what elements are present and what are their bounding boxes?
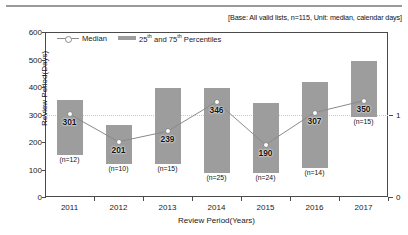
y-axis: Review Period(Days) 6005004003002001000 xyxy=(8,32,42,197)
y-tick-label: 400 xyxy=(12,83,42,92)
x-tick-label: 2016 xyxy=(306,203,324,212)
right-tick-mark xyxy=(389,197,393,198)
plot-area: 301(n=12)201(n=10)239(n=15)346(n=25)190(… xyxy=(45,32,388,197)
median-value-label: 201 xyxy=(112,145,126,155)
x-tick-label: 2012 xyxy=(110,203,128,212)
right-tick-label: 1 xyxy=(396,111,400,120)
y-tick-label: 100 xyxy=(12,165,42,174)
median-marker-icon xyxy=(65,36,72,43)
sample-count-label: (n=24) xyxy=(256,174,276,181)
median-line-swatch-icon xyxy=(57,35,79,42)
sample-count-label: (n=15) xyxy=(158,165,178,172)
x-axis: Review Period(Years) 2011201220132014201… xyxy=(45,197,388,227)
y-tick-label: 500 xyxy=(12,55,42,64)
median-value-label: 301 xyxy=(63,117,77,127)
median-value-label: 239 xyxy=(161,134,175,144)
median-value-label: 307 xyxy=(308,116,322,126)
right-tick-mark xyxy=(389,115,393,116)
sample-count-label: (n=12) xyxy=(60,156,80,163)
y-tick-label: 300 xyxy=(12,110,42,119)
x-axis-label: Review Period(Years) xyxy=(45,216,388,225)
median-value-label: 346 xyxy=(210,105,224,115)
x-tick-mark xyxy=(143,197,144,201)
x-tick-label: 2017 xyxy=(355,203,373,212)
legend-percentiles-word: Percentiles xyxy=(182,35,222,44)
chart-screenshot: [Base: All valid lists, n=115, Unit: med… xyxy=(0,0,408,235)
legend-item-percentiles: 25th and 75th Percentiles xyxy=(118,33,221,44)
legend-item-median: Median xyxy=(57,34,107,43)
legend-label-percentiles: 25th and 75th Percentiles xyxy=(139,33,221,44)
sample-count-label: (n=10) xyxy=(109,165,129,172)
y-tick-label: 0 xyxy=(12,193,42,202)
x-tick-mark xyxy=(94,197,95,201)
x-tick-mark xyxy=(339,197,340,201)
x-tick-mark xyxy=(388,197,389,201)
right-tick-label: 0 xyxy=(396,193,400,202)
legend-and: and 75 xyxy=(152,35,177,44)
x-tick-mark xyxy=(192,197,193,201)
sample-count-label: (n=25) xyxy=(207,174,227,181)
x-tick-label: 2014 xyxy=(208,203,226,212)
sample-count-label: (n=14) xyxy=(305,169,325,176)
legend-label-median: Median xyxy=(82,34,107,43)
x-tick-label: 2015 xyxy=(257,203,275,212)
percentile-bar-swatch-icon xyxy=(118,36,136,40)
base-note: [Base: All valid lists, n=115, Unit: med… xyxy=(228,13,402,22)
x-tick-mark xyxy=(290,197,291,201)
right-axis: 10 xyxy=(389,32,407,197)
top-divider xyxy=(6,5,402,7)
x-tick-mark xyxy=(241,197,242,201)
x-tick-label: 2011 xyxy=(61,203,78,212)
sample-count-label: (n=15) xyxy=(354,118,374,125)
x-tick-label: 2013 xyxy=(159,203,177,212)
median-value-label: 190 xyxy=(259,148,273,158)
y-tick-label: 200 xyxy=(12,138,42,147)
median-value-label: 350 xyxy=(357,104,371,114)
chart-legend: Median 25th and 75th Percentiles xyxy=(57,33,221,44)
y-tick-label: 600 xyxy=(12,28,42,37)
